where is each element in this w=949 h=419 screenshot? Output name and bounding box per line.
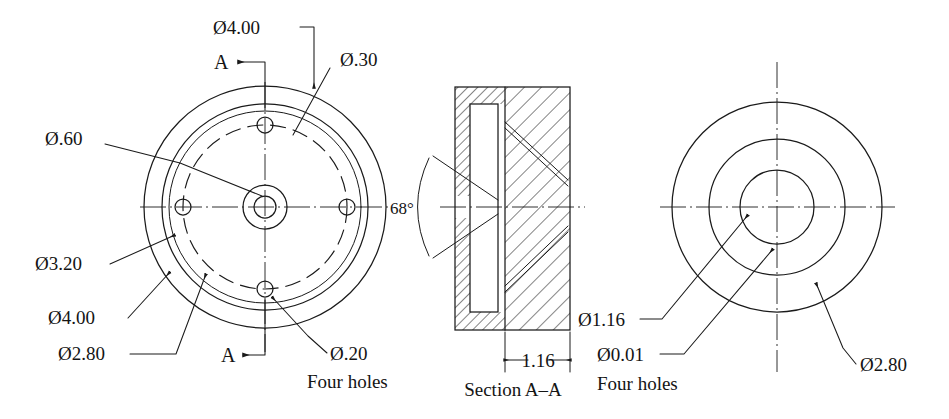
section-recess-cavity <box>470 104 498 312</box>
front-view-hole-count-label: Four holes <box>307 371 388 392</box>
technical-drawing-canvas: Ø4.00 A Ø.30 Ø.60 Ø3.20 Ø4.00 Ø2.80 A Ø.… <box>0 0 949 419</box>
front-view-flange-dia-label: Ø4.00 <box>48 307 95 328</box>
section-letter-bottom: A <box>221 344 236 366</box>
section-angle-label: 68° <box>390 199 414 218</box>
engineering-drawing-svg: Ø4.00 A Ø.30 Ø.60 Ø3.20 Ø4.00 Ø2.80 A Ø.… <box>0 0 949 419</box>
section-letter-top: A <box>214 51 229 73</box>
section-view-caption: Section A–A <box>464 379 562 400</box>
front-view-outer-dia-label: Ø4.00 <box>213 17 260 38</box>
section-recess-gap <box>498 104 505 312</box>
right-view-hole-count-label: Four holes <box>597 373 678 394</box>
front-view-hub-bore-label: Ø.60 <box>45 128 82 149</box>
front-view-recess-dia-label: Ø3.20 <box>35 253 82 274</box>
section-body-right-hatch <box>505 87 570 330</box>
right-view-tolerance-dia-label: Ø0.01 <box>597 344 644 365</box>
right-view-bore-dia-label: Ø1.16 <box>578 309 625 330</box>
front-view-bolt-circle-note-label: Ø.30 <box>340 49 377 70</box>
front-view-counterbore-dia-label: Ø2.80 <box>58 343 105 364</box>
section-thickness-label: 1.16 <box>521 350 554 371</box>
right-view-outer-dia-label: Ø2.80 <box>860 354 907 375</box>
front-view-hole-dia-label: Ø.20 <box>330 343 367 364</box>
